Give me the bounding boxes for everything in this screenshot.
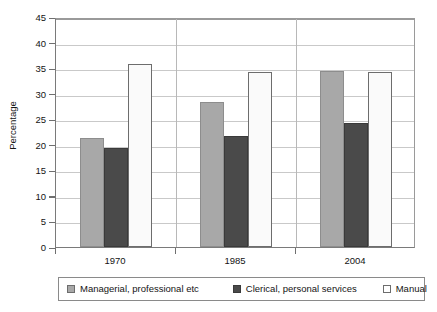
y-tick-label: 0	[41, 241, 46, 254]
y-tick-label: 10	[35, 190, 46, 203]
legend-swatch-icon	[233, 285, 241, 293]
y-tick-label: 30	[35, 88, 46, 101]
legend-item: Clerical, personal services	[233, 283, 357, 295]
y-tick-label: 45	[35, 11, 46, 24]
legend-label: Manual	[396, 283, 427, 295]
category-separator	[296, 19, 297, 247]
legend-item: Manual	[383, 283, 427, 295]
bar	[128, 64, 152, 247]
legend-label: Managerial, professional etc	[80, 283, 199, 295]
y-tick-label: 15	[35, 164, 46, 177]
y-tick-label: 35	[35, 62, 46, 75]
bar	[224, 136, 248, 247]
y-tick-label: 5	[41, 215, 46, 228]
x-axis-label: 2004	[344, 254, 365, 268]
x-axis-label: 1985	[224, 254, 245, 268]
bar	[80, 138, 104, 247]
y-tick-label: 25	[35, 113, 46, 126]
bar	[368, 72, 392, 247]
x-axis-label: 1970	[104, 254, 125, 268]
plot-area	[55, 18, 415, 248]
legend-swatch-icon	[383, 285, 391, 293]
y-tick-label: 40	[35, 37, 46, 50]
legend-item: Managerial, professional etc	[67, 283, 199, 295]
y-axis-ticks: 051015202530354045	[0, 18, 55, 248]
bar	[320, 71, 344, 247]
legend-swatch-icon	[67, 285, 75, 293]
chart-legend: Managerial, professional etcClerical, pe…	[58, 277, 425, 301]
bar	[104, 148, 128, 247]
bar	[344, 123, 368, 247]
y-tick-label: 20	[35, 139, 46, 152]
legend-label: Clerical, personal services	[246, 283, 357, 295]
bars-layer	[56, 19, 414, 247]
bar	[248, 72, 272, 247]
x-axis-labels: 197019852004	[55, 254, 415, 270]
bar-chart: Percentage 051015202530354045 1970198520…	[0, 0, 437, 312]
category-separator	[176, 19, 177, 247]
bar	[200, 102, 224, 247]
